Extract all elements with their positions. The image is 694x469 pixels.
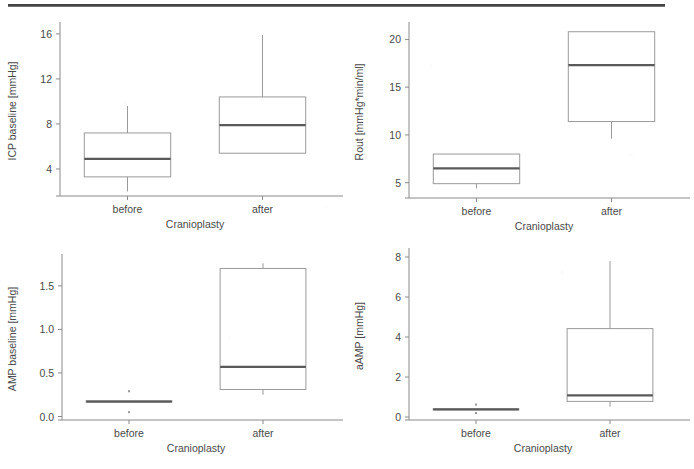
boxplot-after <box>568 32 654 139</box>
y-tick-label: 4 <box>46 163 52 175</box>
y-tick-label: 0 <box>395 411 401 423</box>
boxplot-before <box>84 106 170 192</box>
y-tick-label: 4 <box>395 331 401 343</box>
y-tick-label: 15 <box>389 81 401 93</box>
y-tick-label: 8 <box>46 118 52 130</box>
x-tick-label-after: after <box>252 427 274 439</box>
panel-rout: 5101520Rout [mmHg*min/ml]beforeafterCran… <box>347 8 694 234</box>
x-tick-label-after: after <box>599 427 621 439</box>
y-axis-title: AMP baseline [mmHg] <box>6 287 18 391</box>
y-axis-title: aAMP [mmHg] <box>353 302 365 370</box>
box-iqr <box>567 329 653 402</box>
panel-icp-baseline: 481216ICP baseline [mmHg]beforeafterCran… <box>0 10 347 234</box>
box-iqr <box>220 268 306 389</box>
boxplot-figure: 481216ICP baseline [mmHg]beforeafterCran… <box>0 0 694 469</box>
y-tick-label: 20 <box>389 33 401 45</box>
boxplot-before <box>433 404 519 414</box>
x-tick-label-before: before <box>461 427 491 439</box>
panel-amp-baseline: 0.00.51.01.5AMP baseline [mmHg]beforeaft… <box>0 244 347 469</box>
y-tick-label: 0.0 <box>39 411 54 423</box>
x-axis-title: Cranioplasty <box>166 218 225 230</box>
x-axis-title: Cranioplasty <box>515 220 574 232</box>
boxplot-after <box>220 263 306 395</box>
y-tick-label: 10 <box>389 129 401 141</box>
box-iqr <box>568 32 654 122</box>
outlier-point <box>475 412 477 414</box>
x-axis-title: Cranioplasty <box>167 442 226 454</box>
x-tick-label-after: after <box>601 205 623 217</box>
y-tick-label: 0.5 <box>39 367 54 379</box>
outlier-point <box>128 390 130 392</box>
y-tick-label: 16 <box>40 28 52 40</box>
x-axis-title: Cranioplasty <box>514 442 573 454</box>
outlier-point <box>475 404 477 406</box>
y-tick-label: 1.0 <box>39 323 54 335</box>
y-axis-title: Rout [mmHg*min/ml] <box>353 63 365 160</box>
outlier-point <box>128 411 130 413</box>
x-tick-label-after: after <box>252 203 274 215</box>
y-tick-label: 1.5 <box>39 280 54 292</box>
boxplot-after <box>219 35 305 153</box>
x-tick-label-before: before <box>114 427 144 439</box>
x-tick-label-before: before <box>462 205 492 217</box>
boxplot-after <box>567 261 653 407</box>
boxplot-before <box>86 390 172 413</box>
y-axis-title: ICP baseline [mmHg] <box>6 61 18 160</box>
box-iqr <box>84 133 170 177</box>
y-tick-label: 6 <box>395 291 401 303</box>
y-tick-label: 8 <box>395 251 401 263</box>
y-tick-label: 5 <box>395 177 401 189</box>
y-tick-label: 2 <box>395 371 401 383</box>
y-tick-label: 12 <box>40 73 52 85</box>
panel-aamp: 02468aAMP [mmHg]beforeafterCranioplasty <box>347 244 694 469</box>
boxplot-before <box>433 154 519 188</box>
x-tick-label-before: before <box>113 203 143 215</box>
